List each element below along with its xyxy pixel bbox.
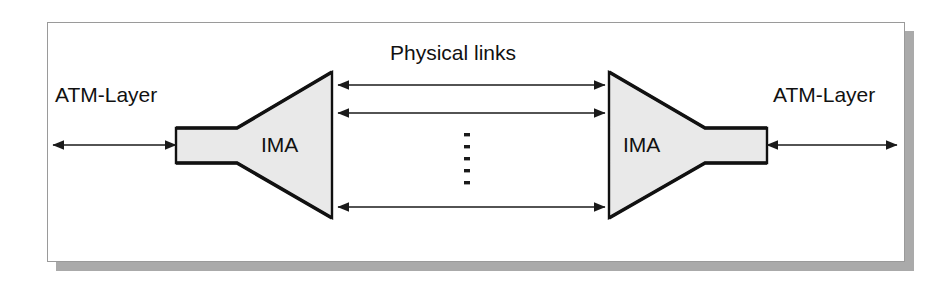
label-ima-left: IMA xyxy=(261,134,298,155)
ima-funnel-left xyxy=(176,72,332,218)
physical-links-group xyxy=(338,85,605,207)
vertical-ellipsis-icon xyxy=(464,133,470,184)
ima-funnel-left-shape xyxy=(176,72,332,218)
label-atm-layer-left: ATM-Layer xyxy=(55,84,157,105)
label-physical-links: Physical links xyxy=(390,42,516,63)
label-atm-layer-right: ATM-Layer xyxy=(773,84,875,105)
ima-architecture-figure: ATM-Layer ATM-Layer IMA IMA Physical lin… xyxy=(0,0,943,296)
label-ima-right: IMA xyxy=(623,134,660,155)
